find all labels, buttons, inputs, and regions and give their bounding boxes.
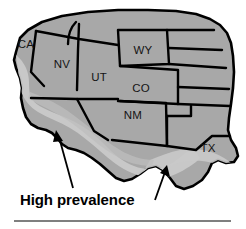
state-label-tx: TX bbox=[200, 142, 215, 154]
state-label-ut: UT bbox=[91, 71, 107, 83]
map-figure: CA NV UT WY CO NM TX High prevalence bbox=[0, 0, 246, 229]
high-prevalence-label: High prevalence bbox=[20, 191, 134, 208]
border-ut-south bbox=[31, 98, 118, 99]
state-label-nm: NM bbox=[124, 109, 142, 121]
state-label-nv: NV bbox=[54, 58, 71, 70]
state-label-co: CO bbox=[132, 82, 150, 94]
western-us-map: CA NV UT WY CO NM TX High prevalence bbox=[0, 0, 246, 229]
state-label-ca: CA bbox=[18, 38, 35, 50]
arrow-right-line bbox=[155, 172, 165, 200]
state-label-wy: WY bbox=[134, 44, 153, 56]
